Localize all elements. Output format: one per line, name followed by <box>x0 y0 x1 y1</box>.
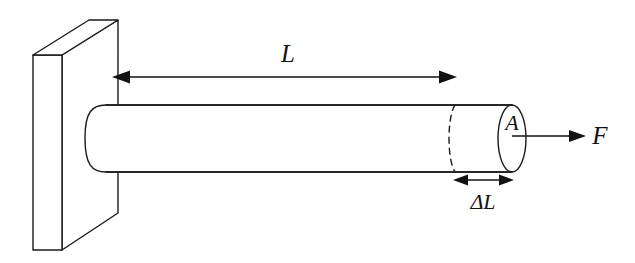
elongation-arrow-head-left <box>453 175 468 186</box>
elongation-label: ΔL <box>469 189 495 214</box>
elongation-arrow-head-right <box>499 175 514 186</box>
wall-front-face <box>33 55 62 250</box>
physics-diagram-figure: L ΔL F A <box>0 0 635 263</box>
elongation-dimension-arrow: ΔL <box>453 175 514 215</box>
force-label: F <box>591 122 608 149</box>
length-arrow-head-right <box>439 71 457 84</box>
force-arrow-head <box>569 130 586 142</box>
length-dimension-arrow: L <box>112 40 457 84</box>
length-label: L <box>280 40 295 67</box>
rod-body <box>85 105 526 172</box>
rod-outline <box>85 105 512 172</box>
diagram-canvas: L ΔL F A <box>0 0 635 263</box>
area-label: A <box>503 110 519 135</box>
